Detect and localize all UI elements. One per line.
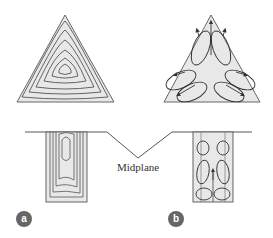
panel-a-badge: a bbox=[16, 211, 32, 227]
panel-b-triangle bbox=[163, 15, 260, 106]
panel-b-cross-section bbox=[193, 132, 233, 202]
panel-b-badge: b bbox=[168, 211, 184, 227]
diagram-canvas bbox=[0, 0, 273, 238]
midplane-label: Midplane bbox=[117, 161, 159, 173]
panel-a-triangle bbox=[17, 15, 114, 102]
panel-a-cross-section bbox=[46, 132, 87, 202]
